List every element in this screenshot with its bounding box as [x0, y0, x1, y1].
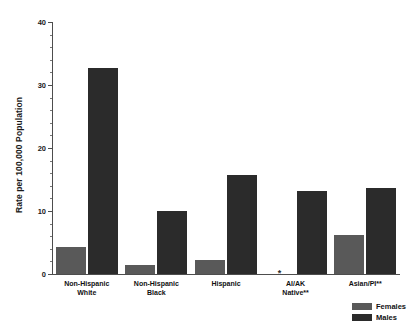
x-axis-category-line: AI/AK: [261, 279, 331, 288]
y-tick-minor: [50, 72, 52, 73]
legend-swatch-males-icon: [352, 314, 372, 321]
plot-area: 010203040 * Non-HispanicWhiteNon-Hispani…: [52, 22, 400, 274]
y-tick-minor: [50, 236, 52, 237]
y-tick-minor: [50, 98, 52, 99]
bar-chart: Rate per 100,000 Population 010203040 * …: [0, 0, 416, 336]
x-axis-category-line: Non-Hispanic: [52, 279, 122, 288]
x-axis-category-line: White: [52, 288, 122, 297]
y-tick-minor: [50, 60, 52, 61]
y-tick-label: 10: [38, 207, 46, 216]
x-axis-category-line: Black: [122, 288, 192, 297]
x-axis-category-line: Asian/PI**: [330, 279, 400, 288]
y-tick-minor: [50, 186, 52, 187]
legend-swatch-females-icon: [352, 303, 372, 310]
x-axis-category-label: Non-HispanicBlack: [122, 279, 192, 297]
y-tick-major: [48, 211, 52, 212]
y-tick-minor: [50, 249, 52, 250]
bar-females: [125, 265, 155, 274]
x-axis-category-line: Hispanic: [191, 279, 261, 288]
y-tick-minor: [50, 224, 52, 225]
y-tick-major: [48, 148, 52, 149]
y-tick-label: 30: [38, 81, 46, 90]
y-tick-minor: [50, 261, 52, 262]
x-axis-category-label: Non-HispanicWhite: [52, 279, 122, 297]
y-tick-minor: [50, 198, 52, 199]
y-tick-minor: [50, 35, 52, 36]
y-tick-minor: [50, 173, 52, 174]
y-tick-minor: [50, 161, 52, 162]
y-axis-line: [52, 22, 53, 274]
x-axis-category-line: Native**: [261, 288, 331, 297]
bar-females: [56, 247, 86, 274]
y-tick-minor: [50, 47, 52, 48]
bar-males: [157, 211, 187, 274]
bar-females: [195, 260, 225, 274]
y-tick-major: [48, 22, 52, 23]
x-axis-line: [52, 274, 400, 275]
x-axis-category-label: AI/AKNative**: [261, 279, 331, 297]
x-axis-category-line: Non-Hispanic: [122, 279, 192, 288]
x-axis-category-label: Asian/PI**: [330, 279, 400, 288]
y-tick-minor: [50, 123, 52, 124]
bar-males: [227, 175, 257, 274]
legend-item-females: Females: [352, 302, 406, 311]
y-tick-label: 20: [38, 144, 46, 153]
suppressed-value-marker: *: [265, 269, 295, 277]
y-tick-label: 40: [38, 18, 46, 27]
legend: Females Males: [352, 302, 406, 324]
bar-males: [88, 68, 118, 274]
bar-females: [334, 235, 364, 274]
y-tick-label: 0: [42, 270, 46, 279]
legend-item-males: Males: [352, 313, 406, 322]
y-tick-minor: [50, 110, 52, 111]
y-tick-major: [48, 274, 52, 275]
legend-label-females: Females: [376, 302, 406, 311]
y-axis-title: Rate per 100,000 Population: [14, 70, 24, 240]
bar-males: [366, 188, 396, 274]
legend-label-males: Males: [376, 313, 397, 322]
bar-males: [297, 191, 327, 274]
x-axis-category-label: Hispanic: [191, 279, 261, 288]
y-tick-minor: [50, 135, 52, 136]
y-tick-major: [48, 85, 52, 86]
